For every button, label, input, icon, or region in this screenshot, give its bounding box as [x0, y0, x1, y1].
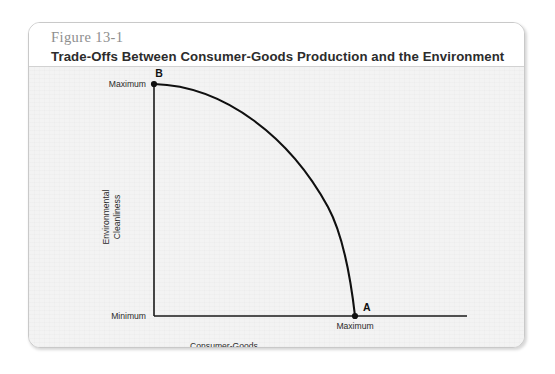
figure-card: Figure 13-1 Trade-Offs Between Consumer-…	[28, 22, 525, 348]
figure-title: Trade-Offs Between Consumer-Goods Produc…	[51, 47, 524, 66]
point-b-marker	[151, 81, 157, 87]
y-tick-label-minimum: Minimum	[111, 311, 146, 321]
x-axis-title-line1: Consumer-Goods	[190, 341, 258, 348]
ppf-chart: B A Maximum Minimum Maximum Environmenta…	[29, 67, 524, 348]
ppf-curve	[154, 84, 355, 316]
point-b-label: B	[155, 67, 163, 79]
figure-body: B A Maximum Minimum Maximum Environmenta…	[29, 67, 524, 347]
y-axis-title-line2: Cleanliness	[112, 195, 122, 239]
y-axis-title: Environmental Cleanliness	[101, 189, 122, 244]
point-a-marker	[352, 313, 358, 319]
x-tick-label-maximum: Maximum	[336, 321, 373, 331]
y-tick-label-maximum: Maximum	[109, 79, 146, 89]
y-axis-title-line1: Environmental	[101, 189, 111, 244]
figure-number: Figure 13-1	[51, 29, 524, 46]
figure-header: Figure 13-1 Trade-Offs Between Consumer-…	[29, 23, 524, 67]
x-axis-title: Consumer-Goods Production	[190, 341, 258, 348]
point-a-label: A	[363, 301, 371, 313]
